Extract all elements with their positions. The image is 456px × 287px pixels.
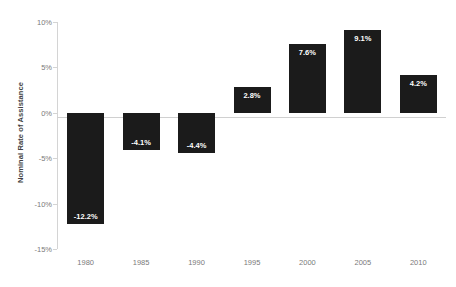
y-axis-tick-mark: [53, 158, 57, 159]
x-axis-tick-label: 2000: [280, 258, 335, 267]
x-axis-tick-label: 1985: [113, 258, 168, 267]
bar: 4.2%: [400, 75, 437, 113]
y-axis-tick-mark: [53, 22, 57, 23]
y-axis-tick-labels: 10%5%0%-5%-10%-15%: [0, 0, 52, 287]
bar-value-label: 4.2%: [400, 79, 437, 88]
y-axis-tick-mark: [53, 249, 57, 250]
bar-chart: Nominal Rate of Assistance 10%5%0%-5%-10…: [0, 0, 456, 287]
plot-area: -12.2%1980-4.1%1985-4.4%19902.8%19957.6%…: [58, 0, 446, 287]
y-axis-tick-label: 0%: [12, 108, 52, 117]
bar-value-label: -4.4%: [178, 141, 215, 150]
bar-value-label: -12.2%: [67, 212, 104, 221]
y-axis-tick-mark: [53, 204, 57, 205]
bar-value-label: 9.1%: [344, 34, 381, 43]
y-axis-tick-label: -10%: [12, 199, 52, 208]
y-axis-tick-label: 5%: [12, 63, 52, 72]
x-axis-tick-label: 2010: [391, 258, 446, 267]
y-axis-tick-label: 10%: [12, 18, 52, 27]
bar: -4.1%: [123, 113, 160, 150]
x-axis-tick-label: 1995: [224, 258, 279, 267]
bar: 7.6%: [289, 44, 326, 113]
bar: -12.2%: [67, 113, 104, 224]
x-axis-tick-label: 1980: [58, 258, 113, 267]
y-axis-tick-mark: [53, 113, 57, 114]
bar: 9.1%: [344, 30, 381, 113]
bar: 2.8%: [234, 87, 271, 112]
bar: -4.4%: [178, 113, 215, 153]
bar-value-label: -4.1%: [123, 138, 160, 147]
x-axis-tick-label: 1990: [169, 258, 224, 267]
y-axis-tick-mark: [53, 67, 57, 68]
bar-value-label: 7.6%: [289, 48, 326, 57]
bar-value-label: 2.8%: [234, 91, 271, 100]
y-axis-tick-label: -15%: [12, 245, 52, 254]
y-axis-tick-label: -5%: [12, 154, 52, 163]
x-axis-tick-label: 2005: [335, 258, 390, 267]
